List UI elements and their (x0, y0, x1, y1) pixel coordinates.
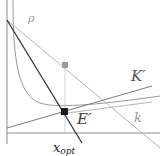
label-opt-subscript: opt (60, 146, 75, 156)
label-k: k (134, 111, 142, 124)
optimum-point-e-prime (61, 108, 68, 115)
label-k-prime: K′ (131, 69, 146, 84)
marker-point (62, 62, 68, 68)
label-x-opt: xopt (53, 141, 75, 156)
label-rho: ρ (28, 13, 34, 24)
label-e-prime: E′ (77, 112, 91, 127)
